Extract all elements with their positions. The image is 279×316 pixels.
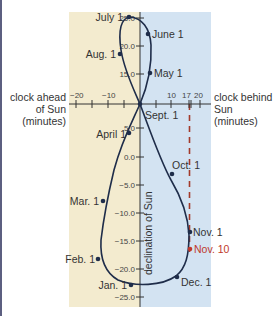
- x-axis-label-right: clock behind Sun (minutes): [214, 91, 279, 127]
- y-tick-label: 20.0: [119, 42, 135, 51]
- label-dec1: Dec. 1: [181, 276, 212, 288]
- marker-sept1: [138, 102, 143, 107]
- label-oct1: Oct. 1: [172, 159, 200, 171]
- x-left-line1: clock ahead: [4, 91, 66, 103]
- x-tick-label: 17: [182, 91, 191, 100]
- x-tick-label: −10: [102, 91, 116, 100]
- x-tick-label: −20: [70, 91, 84, 100]
- marker-mar1: [101, 199, 106, 204]
- marker-april1: [127, 131, 132, 136]
- y-tick-label: −10.0: [115, 209, 136, 218]
- y-tick-label: −15.0: [115, 237, 136, 246]
- label-may1: May 1: [154, 67, 183, 79]
- x-axis-label-left: clock ahead of Sun (minutes): [4, 91, 66, 127]
- marker-nov1: [188, 230, 193, 235]
- label-april1: April 1: [96, 128, 126, 140]
- marker-may1: [148, 71, 153, 76]
- y-tick-label: −25.0: [115, 293, 136, 302]
- x-right-line2: Sun: [214, 103, 279, 115]
- y-tick-label: −20.0: [115, 265, 136, 274]
- label-june1: June 1: [152, 28, 184, 40]
- y-tick-label: 0.0: [124, 153, 136, 162]
- x-tick-label: 20: [194, 91, 203, 100]
- marker-july1: [127, 15, 132, 20]
- marker-aug1: [118, 52, 123, 57]
- x-tick-label: 10: [167, 91, 176, 100]
- y-tick-label: −5.0: [119, 181, 135, 190]
- label-nov1: Nov. 1: [193, 226, 223, 238]
- marker-nov10: [188, 247, 193, 252]
- label-sept1: Sept. 1: [145, 109, 178, 121]
- label-feb1: Feb. 1: [65, 253, 95, 265]
- label-nov10: Nov. 10: [194, 243, 230, 255]
- x-right-line1: clock behind: [214, 91, 279, 103]
- x-left-line2: of Sun: [4, 103, 66, 115]
- x-right-line3: (minutes): [214, 115, 279, 127]
- label-aug1: Aug. 1: [86, 48, 117, 60]
- marker-jan1: [129, 283, 134, 288]
- marker-oct1: [170, 172, 175, 177]
- x-left-line3: (minutes): [4, 115, 66, 127]
- label-july1: July 1: [96, 11, 124, 23]
- marker-feb1: [96, 257, 101, 262]
- label-mar1: Mar. 1: [70, 195, 99, 207]
- y-axis-label: declination of Sun: [142, 191, 154, 275]
- marker-dec1: [175, 275, 180, 280]
- label-jan1: Jan. 1: [98, 279, 127, 291]
- marker-june1: [146, 32, 151, 37]
- analemma-chart: −20 −10 10 17 20 25.0 20.0 15.0 5.0 0.0 …: [0, 0, 279, 316]
